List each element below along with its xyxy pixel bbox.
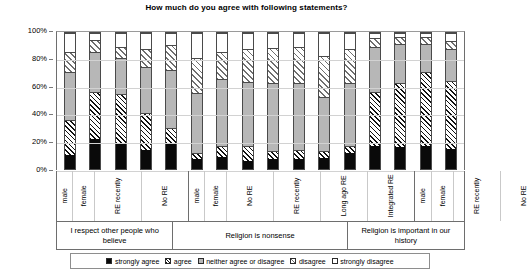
legend-label: agree — [174, 258, 192, 265]
bar-segment — [217, 52, 227, 79]
stacked-bar[interactable] — [165, 32, 177, 170]
y-tick-mark — [49, 59, 53, 60]
legend-item[interactable]: neither agree or disagree — [198, 258, 285, 265]
bar-segment — [141, 49, 151, 67]
bar-slot — [311, 32, 336, 170]
bar-slot — [82, 32, 107, 170]
bar-segment — [319, 33, 329, 56]
stacked-bar[interactable] — [369, 32, 381, 170]
stacked-bar[interactable] — [89, 32, 101, 170]
bar-segment — [446, 149, 456, 169]
chart-title: How much do you agree with following sta… — [0, 3, 493, 12]
y-tick-mark — [49, 31, 53, 32]
legend-label: strongly disagree — [340, 258, 393, 265]
bar-segment — [116, 143, 126, 169]
legend-item[interactable]: disagree — [290, 258, 325, 265]
legend-item[interactable]: strongly disagree — [332, 258, 394, 265]
legend-swatch-icon — [290, 258, 296, 264]
stacked-bar[interactable] — [344, 32, 356, 170]
bar-segment — [319, 56, 329, 97]
bar-segment — [345, 33, 355, 49]
bar-slot — [159, 32, 184, 170]
bar-segment — [116, 58, 126, 95]
group-caption: Religion is important in our history — [348, 222, 464, 249]
bar-segment — [217, 157, 227, 169]
x-tick-cell: RE recently — [95, 171, 142, 221]
bar-segment — [141, 150, 151, 169]
x-tick-label: male — [193, 188, 201, 203]
stacked-bar[interactable] — [293, 32, 305, 170]
bar-segment — [294, 159, 304, 169]
chart-legend: strongly agreeagreeneither agree or disa… — [70, 253, 430, 269]
legend-item[interactable]: strongly agree — [106, 258, 159, 265]
gridline — [57, 60, 464, 61]
bar-segment — [65, 72, 75, 120]
stacked-bar[interactable] — [267, 32, 279, 170]
bars-group — [57, 32, 464, 170]
legend-swatch-icon — [332, 258, 338, 264]
plot-area — [56, 31, 465, 170]
bar-slot — [184, 32, 209, 170]
bar-segment — [243, 33, 253, 49]
x-tick-label: No RE — [520, 173, 528, 219]
y-tick-mark — [49, 87, 53, 88]
bar-segment — [192, 33, 202, 57]
bar-segment — [166, 33, 176, 45]
stacked-bar[interactable] — [191, 32, 203, 170]
y-tick-label: 60% — [32, 83, 47, 91]
legend-item[interactable]: agree — [165, 258, 191, 265]
x-tick-label: RE recently — [114, 173, 122, 219]
bar-segment — [345, 49, 355, 83]
x-tick-cell: female — [205, 171, 227, 221]
x-tick-label: RE recently — [294, 173, 302, 219]
stacked-bar[interactable] — [242, 32, 254, 170]
y-axis: 0%20%40%60%80%100% — [0, 26, 56, 176]
gridline — [57, 88, 464, 89]
bar-segment — [65, 120, 75, 155]
stacked-bar[interactable] — [140, 32, 152, 170]
bar-segment — [421, 146, 431, 169]
legend-label: disagree — [299, 258, 326, 265]
bar-slot — [235, 32, 260, 170]
x-tick-cell: Integrated RE — [368, 171, 415, 221]
y-tick-label: 0% — [36, 166, 47, 174]
bar-segment — [141, 67, 151, 113]
bar-segment — [116, 47, 126, 58]
legend-label: strongly agree — [115, 258, 159, 265]
bar-segment — [268, 33, 278, 48]
bar-segment — [141, 33, 151, 49]
stacked-bar[interactable] — [420, 32, 432, 170]
bar-segment — [192, 153, 202, 160]
stacked-bar[interactable] — [64, 32, 76, 170]
x-tick-cell: female — [73, 171, 95, 221]
x-tick-cell: male — [57, 171, 73, 221]
bar-segment — [243, 49, 253, 82]
stacked-bar[interactable] — [394, 32, 406, 170]
bar-segment — [217, 146, 227, 157]
stacked-bar[interactable] — [115, 32, 127, 170]
bar-segment — [166, 128, 176, 143]
x-tick-cell: RE recently — [274, 171, 321, 221]
bar-segment — [217, 33, 227, 52]
group-caption-band: I respect other people who believeReligi… — [56, 222, 465, 250]
bar-segment — [65, 52, 75, 72]
bar-segment — [421, 72, 431, 145]
bar-segment — [90, 40, 100, 52]
x-tick-label: male — [61, 188, 69, 203]
x-tick-label: female — [438, 185, 446, 206]
bar-segment — [141, 113, 151, 150]
x-tick-label: Long ago RE — [341, 173, 349, 219]
gridline — [57, 115, 464, 116]
x-tick-label: No RE — [161, 173, 169, 219]
bar-slot — [337, 32, 362, 170]
bar-segment — [90, 52, 100, 91]
bar-segment — [217, 79, 227, 146]
legend-label: neither agree or disagree — [206, 258, 284, 265]
stacked-bar[interactable] — [216, 32, 228, 170]
stacked-bar[interactable] — [445, 32, 457, 170]
y-tick-label: 80% — [32, 55, 47, 63]
bar-segment — [395, 44, 405, 83]
bar-segment — [166, 143, 176, 169]
stacked-bar[interactable] — [318, 32, 330, 170]
bar-slot — [286, 32, 311, 170]
